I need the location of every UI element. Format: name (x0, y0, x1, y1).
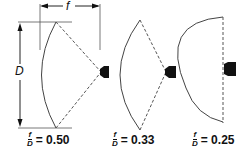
focal-length-dimension (40, 4, 100, 51)
dish-2 (120, 20, 176, 130)
diameter-label: D (15, 64, 24, 78)
fraction: f D (27, 131, 33, 148)
fraction: f D (112, 131, 118, 148)
feed-horn-icon (224, 62, 236, 76)
diameter-dimension (18, 22, 73, 128)
arrowhead-left-icon (40, 4, 48, 9)
ratio-label-1: f D = 0.50 (27, 131, 69, 148)
dish-1 (42, 22, 110, 128)
fraction: f D (192, 131, 198, 148)
feed-horn-icon (165, 66, 176, 78)
arrowhead-down-icon (18, 119, 23, 127)
feed-horn-icon (100, 66, 109, 78)
arrowhead-up-icon (18, 23, 23, 31)
ratio-label-3: f D = 0.25 (192, 131, 234, 148)
focal-length-label: f (66, 0, 69, 13)
arrowhead-right-icon (92, 4, 100, 9)
ratio-label-2: f D = 0.33 (112, 131, 154, 148)
dish-3 (178, 17, 236, 123)
